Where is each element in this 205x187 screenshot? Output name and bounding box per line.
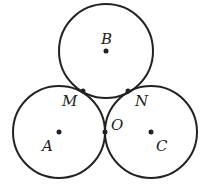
tangent-circles-diagram: BACMNO [0, 0, 205, 187]
label-m: M [61, 92, 78, 110]
label-b: B [100, 30, 112, 48]
label-n: N [134, 92, 149, 110]
label-c: C [156, 137, 168, 155]
point-b [104, 49, 109, 54]
label-o: O [111, 116, 123, 134]
point-n [126, 89, 131, 94]
label-a: A [40, 137, 53, 155]
point-m [81, 89, 86, 94]
point-c [149, 130, 154, 135]
point-a [57, 130, 62, 135]
point-o [103, 130, 108, 135]
